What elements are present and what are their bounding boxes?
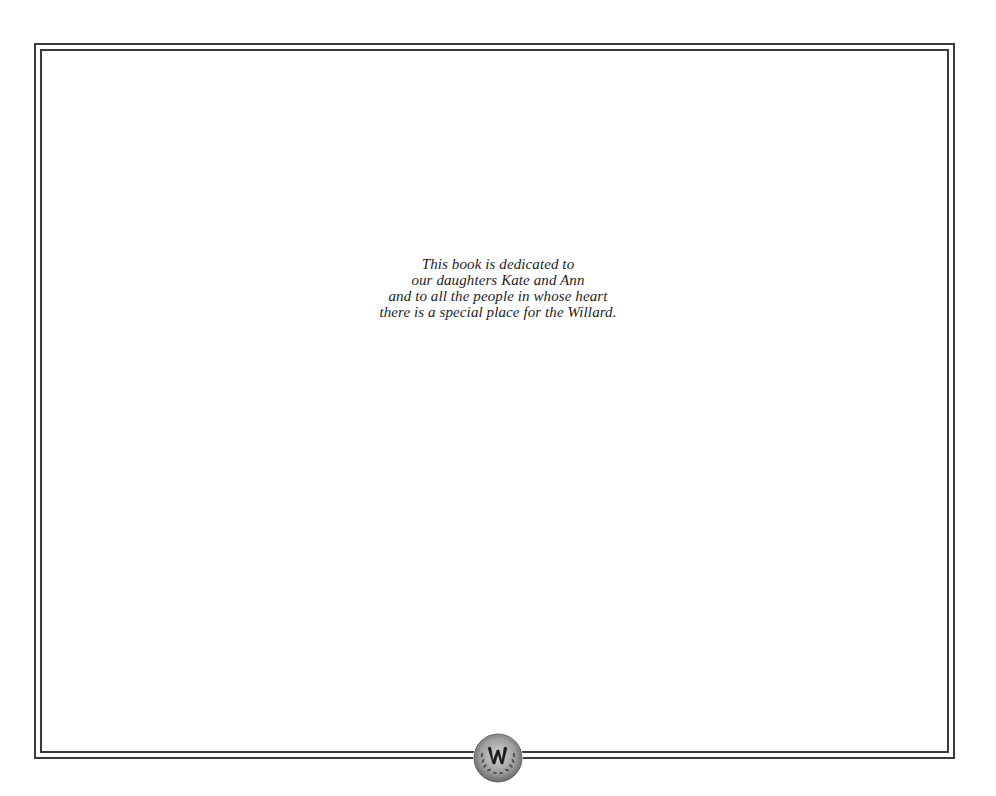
- dedication-line-4: there is a special place for the Willard…: [0, 304, 996, 320]
- willard-seal-icon: [473, 733, 523, 783]
- dedication-line-3: and to all the people in whose heart: [0, 288, 996, 304]
- dedication-line-1: This book is dedicated to: [0, 256, 996, 272]
- dedication-text: This book is dedicated to our daughters …: [0, 256, 996, 320]
- dedication-line-2: our daughters Kate and Ann: [0, 272, 996, 288]
- inner-border-frame: [40, 49, 949, 753]
